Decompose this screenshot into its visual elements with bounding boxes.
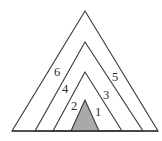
region-label-2: 2 (71, 99, 77, 113)
region-label-6: 6 (54, 65, 60, 79)
nested-triangles-figure: 6 4 2 5 3 1 (0, 0, 162, 141)
nested-triangles-diagram: 6 4 2 5 3 1 (0, 0, 162, 141)
region-label-3: 3 (103, 88, 109, 102)
region-label-1: 1 (95, 105, 101, 119)
region-label-4: 4 (62, 82, 69, 96)
region-label-5: 5 (112, 70, 118, 84)
